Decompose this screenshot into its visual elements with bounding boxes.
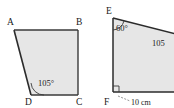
dimension-leader-10cm: [118, 96, 130, 101]
angle-label-right-105: 105: [152, 38, 165, 48]
angle-label-d-105: 105°: [38, 78, 54, 88]
geometry-figure: A B C D 105° E F 60° 105 10 cm: [0, 0, 174, 108]
vertex-label-d: D: [25, 97, 32, 107]
vertex-label-c: C: [76, 97, 82, 107]
vertex-label-e: E: [106, 6, 112, 16]
figure-canvas: A B C D 105° E F 60° 105 10 cm: [0, 0, 174, 108]
vertex-label-a: A: [7, 17, 14, 27]
angle-label-e-60: 60°: [116, 23, 128, 33]
dimension-label-10cm: 10 cm: [131, 98, 152, 107]
vertex-label-b: B: [76, 17, 82, 27]
vertex-label-f: F: [104, 97, 109, 107]
